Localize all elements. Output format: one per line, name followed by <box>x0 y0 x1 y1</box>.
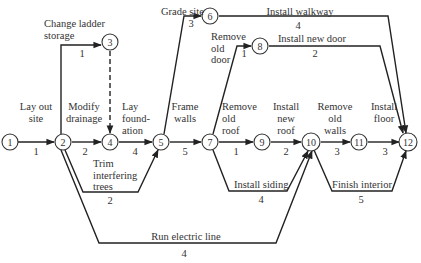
svg-text:3: 3 <box>108 37 113 48</box>
node-7: 7 <box>202 134 218 150</box>
node-10: 10 <box>302 133 320 151</box>
svg-text:trees: trees <box>93 181 113 192</box>
label-remove-old-door: Remove <box>211 31 246 42</box>
svg-text:6: 6 <box>208 11 213 22</box>
node-6: 6 <box>202 8 218 24</box>
duration-11-12: 3 <box>382 146 387 157</box>
duration-2-3: 1 <box>79 48 84 59</box>
svg-text:walls: walls <box>174 113 196 124</box>
svg-text:old: old <box>328 113 342 124</box>
svg-text:11: 11 <box>354 137 364 148</box>
node-5: 5 <box>153 134 169 150</box>
svg-text:4: 4 <box>108 137 113 148</box>
svg-text:12: 12 <box>403 137 413 148</box>
svg-text:floor: floor <box>374 113 395 124</box>
svg-text:old: old <box>211 43 225 54</box>
svg-text:roof: roof <box>222 125 240 136</box>
label-change-ladder-storage: Change ladder <box>44 18 105 29</box>
label-modify-drainage: Modify <box>68 101 100 112</box>
svg-text:10: 10 <box>306 137 316 148</box>
label-lay-foundation: Lay <box>122 101 139 112</box>
duration-5-6: 3 <box>188 18 193 29</box>
svg-text:5: 5 <box>159 137 164 148</box>
duration-5-7: 5 <box>182 146 187 157</box>
duration-1-2: 1 <box>33 146 38 157</box>
svg-text:1: 1 <box>8 137 13 148</box>
node-2: 2 <box>55 134 71 150</box>
duration-7-8: 1 <box>241 48 246 59</box>
node-9: 9 <box>254 134 270 150</box>
duration-9-10: 2 <box>283 146 288 157</box>
duration-2-10: 4 <box>181 248 187 259</box>
svg-text:new: new <box>277 113 295 124</box>
label-remove-old-roof: Remove <box>222 101 257 112</box>
network-diagram: 1 2 3 4 5 6 7 8 9 10 11 12 Lay out site … <box>0 0 421 263</box>
label-install-siding: Install siding <box>234 179 289 190</box>
label-install-walkway: Install walkway <box>267 6 335 17</box>
svg-text:ation: ation <box>122 125 144 136</box>
svg-text:2: 2 <box>61 137 66 148</box>
label-install-new-roof: Install <box>273 101 299 112</box>
label-trim-interfering-trees: Trim <box>93 158 114 169</box>
svg-text:9: 9 <box>260 137 265 148</box>
label-install-new-door: Install new door <box>278 33 347 44</box>
duration-7-10: 4 <box>258 194 264 205</box>
svg-text:walls: walls <box>324 125 346 136</box>
node-3: 3 <box>102 34 118 50</box>
label-grade-site: Grade site <box>161 6 204 17</box>
duration-4-5: 4 <box>132 146 138 157</box>
node-8: 8 <box>252 38 268 54</box>
duration-10-11: 3 <box>334 146 339 157</box>
label-install-floor: Install <box>371 101 397 112</box>
svg-text:interfering: interfering <box>93 170 138 181</box>
label-run-electric-line: Run electric line <box>151 231 221 242</box>
svg-text:door: door <box>211 54 231 65</box>
svg-text:old: old <box>222 113 236 124</box>
label-finish-interior: Finish interior <box>332 179 392 190</box>
duration-7-9: 1 <box>233 146 238 157</box>
node-12: 12 <box>399 133 417 151</box>
svg-text:drainage: drainage <box>66 113 102 124</box>
duration-2-5: 2 <box>107 195 112 206</box>
duration-6-12: 4 <box>295 20 301 31</box>
label-frame-walls: Frame <box>172 101 199 112</box>
node-1: 1 <box>2 134 18 150</box>
svg-text:found-: found- <box>122 113 150 124</box>
node-11: 11 <box>351 134 367 150</box>
activity-labels: Lay out site Change ladder storage Modif… <box>20 6 397 242</box>
svg-text:7: 7 <box>208 137 213 148</box>
svg-text:roof: roof <box>277 125 295 136</box>
label-lay-out-site: Lay out <box>20 101 52 112</box>
duration-10-12: 5 <box>358 194 363 205</box>
duration-2-4: 2 <box>82 146 87 157</box>
svg-text:8: 8 <box>258 41 263 52</box>
svg-text:site: site <box>29 113 44 124</box>
node-4: 4 <box>102 134 118 150</box>
svg-text:storage: storage <box>44 30 75 41</box>
duration-8-12: 2 <box>312 48 317 59</box>
label-remove-old-walls: Remove <box>318 101 353 112</box>
